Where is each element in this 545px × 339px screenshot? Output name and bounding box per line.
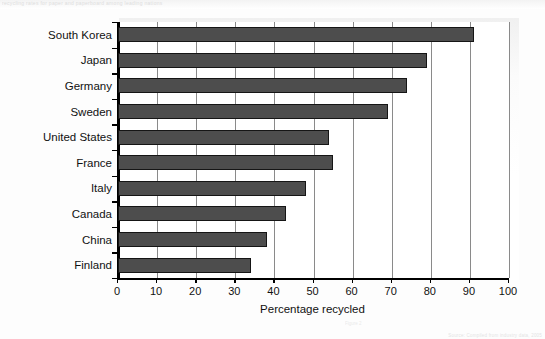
y-axis-label-text: Japan — [2, 54, 112, 66]
x-axis-tick-label-50: 50 — [306, 285, 318, 297]
y-axis-label-text: Italy — [2, 182, 112, 194]
x-axis-tick-label-30: 30 — [228, 285, 240, 297]
x-axis-tick-label-10: 10 — [150, 285, 162, 297]
y-axis-label-china: China — [0, 227, 112, 253]
x-axis-tick-label-0: 0 — [114, 285, 120, 297]
x-axis-tick-10 — [156, 278, 157, 283]
bar-japan[interactable] — [118, 53, 427, 68]
x-axis-tick-label-20: 20 — [189, 285, 201, 297]
x-axis-tick-0 — [117, 278, 118, 283]
y-axis-labels: South KoreaJapanGermanySwedenUnited Stat… — [0, 22, 112, 278]
y-axis-label-finland: Finland — [0, 252, 112, 278]
y-axis-label-united-states: United States — [0, 124, 112, 150]
y-axis-label-text: Germany — [2, 80, 112, 92]
x-axis-tick-label-90: 90 — [463, 285, 475, 297]
bar-canada[interactable] — [118, 206, 286, 221]
y-axis-label-south-korea: South Korea — [0, 22, 112, 48]
x-axis-tick-label-100: 100 — [499, 285, 517, 297]
bar-finland[interactable] — [118, 258, 251, 273]
bar-united-states[interactable] — [118, 130, 329, 145]
y-axis-label-germany: Germany — [0, 73, 112, 99]
y-axis-label-france: France — [0, 150, 112, 176]
bar-row — [118, 150, 509, 176]
x-axis-tick-20 — [195, 278, 196, 283]
y-axis-label-canada: Canada — [0, 201, 112, 227]
x-axis-tick-label-40: 40 — [267, 285, 279, 297]
bar-china[interactable] — [118, 232, 267, 247]
x-axis-tick-label-70: 70 — [385, 285, 397, 297]
gridline-100 — [509, 22, 510, 278]
x-axis-title: Percentage recycled — [117, 303, 508, 315]
bar-row — [118, 201, 509, 227]
y-axis-label-text: Finland — [2, 259, 112, 271]
y-axis-label-text: Sweden — [2, 106, 112, 118]
y-axis-label-text: China — [2, 234, 112, 246]
y-axis-label-text: France — [2, 157, 112, 169]
y-axis-label-japan: Japan — [0, 48, 112, 74]
bar-chart: South KoreaJapanGermanySwedenUnited Stat… — [0, 0, 545, 339]
x-axis-tick-30 — [234, 278, 235, 283]
bar-row — [118, 176, 509, 202]
y-axis-label-text: United States — [2, 131, 112, 143]
x-axis-tick-100 — [508, 278, 509, 283]
bar-germany[interactable] — [118, 78, 407, 93]
bar-row — [118, 99, 509, 125]
y-axis-label-text: South Korea — [2, 29, 112, 41]
x-axis-tick-40 — [273, 278, 274, 283]
x-axis-tick-80 — [430, 278, 431, 283]
y-axis-label-sweden: Sweden — [0, 99, 112, 125]
bar-south-korea[interactable] — [118, 27, 474, 42]
bar-france[interactable] — [118, 155, 333, 170]
y-axis-label-italy: Italy — [0, 176, 112, 202]
x-axis-tick-50 — [313, 278, 314, 283]
bar-row — [118, 227, 509, 253]
bar-italy[interactable] — [118, 181, 306, 196]
x-axis-tick-70 — [391, 278, 392, 283]
x-axis-tick-label-80: 80 — [424, 285, 436, 297]
x-axis-tick-label-60: 60 — [345, 285, 357, 297]
plot-area — [117, 22, 509, 278]
bar-row — [118, 73, 509, 99]
bar-row — [118, 124, 509, 150]
x-axis-tick-60 — [352, 278, 353, 283]
y-axis-label-text: Canada — [2, 208, 112, 220]
bar-row — [118, 48, 509, 74]
bar-row — [118, 252, 509, 278]
bar-row — [118, 22, 509, 48]
bar-sweden[interactable] — [118, 104, 388, 119]
x-axis-tick-90 — [469, 278, 470, 283]
